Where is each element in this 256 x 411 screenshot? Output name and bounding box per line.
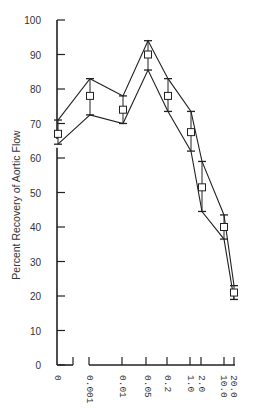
- mean-marker: [199, 184, 206, 191]
- x-tick-label: 10.0: [218, 375, 229, 398]
- x-tick-label: 0: [52, 375, 63, 381]
- y-tick-label: 10: [30, 326, 42, 337]
- x-tick-label: 0.001: [84, 375, 95, 404]
- mean-marker: [120, 106, 127, 113]
- series: [54, 41, 238, 300]
- mean-marker: [87, 92, 94, 99]
- y-tick-label: 20: [30, 291, 42, 302]
- mean-marker: [188, 129, 195, 136]
- x-tick-label: 0.05: [142, 375, 153, 398]
- y-tick-label: 80: [30, 84, 42, 95]
- x-tick-label: 0.01: [117, 375, 128, 398]
- x-tick-label: 0.2: [162, 375, 173, 392]
- y-tick-label: 100: [24, 15, 41, 26]
- mean-marker: [145, 51, 152, 58]
- y-tick-label: 90: [30, 50, 42, 61]
- axes: 010203040506070809010000.0010.010.050.21…: [24, 15, 239, 404]
- upper-line: [58, 41, 234, 286]
- x-tick-label: 20.0: [228, 375, 239, 398]
- y-tick-label: 0: [35, 360, 41, 371]
- y-tick-label: 40: [30, 222, 42, 233]
- y-tick-label: 50: [30, 188, 42, 199]
- y-tick-label: 30: [30, 257, 42, 268]
- lower-line: [58, 70, 234, 299]
- mean-marker: [55, 130, 62, 137]
- mean-marker: [165, 92, 172, 99]
- mean-marker: [231, 289, 238, 296]
- line-chart: 010203040506070809010000.0010.010.050.21…: [0, 0, 256, 411]
- x-tick-label: 2.0: [196, 375, 207, 392]
- y-axis-label: Percent Recovery of Aortic Flow: [10, 130, 22, 280]
- mean-marker: [221, 224, 228, 231]
- y-tick-label: 70: [30, 119, 42, 130]
- y-tick-label: 60: [30, 153, 42, 164]
- x-tick-label: 1.0: [185, 375, 196, 392]
